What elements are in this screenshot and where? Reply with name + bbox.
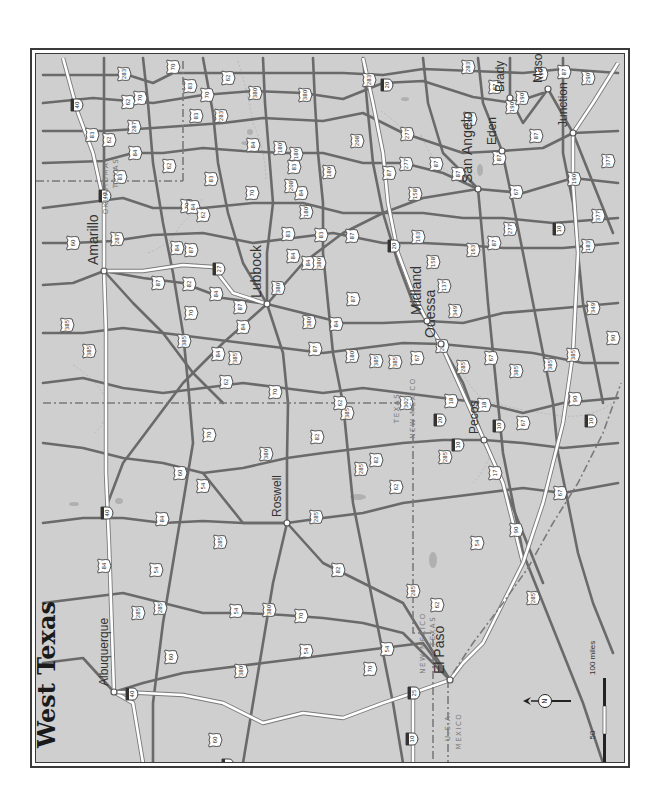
city-eden[interactable]: Eden <box>485 117 505 154</box>
shield-number: 385 <box>392 356 398 367</box>
us-highway-shield-icon: 67 <box>517 416 530 430</box>
us-highway-shield-icon: 380 <box>313 256 326 270</box>
shield-number: 349 <box>452 305 458 316</box>
city-dot-icon <box>481 437 487 443</box>
city-el-paso[interactable]: El Paso <box>431 626 453 683</box>
state-label: MEXICO <box>455 713 463 750</box>
us-highway-shield-icon: 60 <box>67 236 80 250</box>
us-highway-shield-icon: 70 <box>269 385 282 399</box>
shield-number: 60 <box>168 653 174 660</box>
map-canvas[interactable]: 4040404025251010101010202027206028783622… <box>35 53 625 763</box>
city-label: San Angelo <box>459 111 475 183</box>
us-highway-shield-icon: 87 <box>346 229 359 243</box>
us-highway-shield-icon: 83 <box>86 128 99 142</box>
us-highway-shield-icon: 190 <box>516 91 529 105</box>
us-highway-shield-icon: 54 <box>230 604 243 618</box>
shield-number: 277 <box>403 158 409 169</box>
shield-number: 84 <box>305 259 311 266</box>
city-dot-icon <box>545 86 551 92</box>
us-highway-shield-icon: 54 <box>197 479 210 493</box>
shield-number: 190 <box>509 101 515 112</box>
shield-number: 87 <box>496 154 502 161</box>
interstate-shield-icon: 27 <box>213 263 225 275</box>
us-highway-shield-icon: 54 <box>150 563 163 577</box>
us-highway-shield-icon: 385 <box>389 355 402 369</box>
us-highway-shield-icon: 163 <box>467 243 480 257</box>
shield-number: 67 <box>513 188 519 195</box>
shield-number: 20 <box>391 242 397 249</box>
shield-number: 208 <box>288 180 294 191</box>
shield-number: 60 <box>70 239 76 246</box>
shield-number: 137 <box>441 280 447 291</box>
us-highway-shield-icon: 290 <box>582 71 595 85</box>
shield-number: 377 <box>595 210 601 221</box>
us-highway-shield-icon: 84 <box>129 146 142 160</box>
us-highway-shield-icon: 380 <box>249 86 262 100</box>
us-highway-shield-icon: 349 <box>587 301 600 315</box>
shield-number: 290 <box>585 72 591 83</box>
us-highway-shield-icon: 180 <box>300 205 313 219</box>
us-highway-shield-icon: 285 <box>407 584 420 598</box>
us-highway-shield-icon: 84 <box>171 241 184 255</box>
city-dot-icon <box>264 301 270 307</box>
city-junction[interactable]: Junction <box>556 82 576 136</box>
shield-number: 10 <box>409 735 415 742</box>
us-highway-shield-icon: 287 <box>128 120 141 134</box>
scale-label-50: 50 <box>588 730 597 739</box>
shield-number: 87 <box>561 68 567 75</box>
shield-number: 62 <box>225 75 231 82</box>
shield-number: 18 <box>448 397 454 404</box>
shield-number: 10 <box>455 441 461 448</box>
shield-number: 87 <box>312 345 318 352</box>
us-highway-shield-icon: 87 <box>152 276 165 290</box>
city-label: Odessa <box>422 290 438 338</box>
us-highway-shield-icon: 180 <box>290 147 303 161</box>
us-highway-shield-icon: 385 <box>229 351 242 365</box>
us-highway-shield-icon: 190 <box>568 172 581 186</box>
shield-number: 27 <box>216 265 222 272</box>
shield-number: 380 <box>266 604 272 615</box>
city-label: Mason <box>531 54 545 83</box>
shield-number: 380 <box>275 282 281 293</box>
shield-number: 180 <box>293 148 299 159</box>
us-highway-shield-icon: 87 <box>383 166 396 180</box>
us-highway-shield-icon: 283 <box>462 60 475 74</box>
shield-number: 70 <box>204 91 210 98</box>
shield-number: 84 <box>132 149 138 156</box>
svg-text:N: N <box>541 698 549 703</box>
us-highway-shield-icon: 277 <box>504 222 517 236</box>
us-highway-shield-icon: 380 <box>303 315 316 329</box>
us-highway-shield-icon: 87 <box>309 342 322 356</box>
shield-number: 40 <box>74 101 80 108</box>
shield-number: 84 <box>213 290 219 297</box>
shield-number: 87 <box>188 246 194 253</box>
city-dot-icon <box>111 689 117 695</box>
shield-number: 84 <box>298 189 304 196</box>
map-title: West Texas <box>36 601 61 749</box>
us-highway-shield-icon: 62 <box>390 480 403 494</box>
shield-number: 287 <box>114 233 120 244</box>
shield-number: 20 <box>384 81 390 88</box>
shield-number: 285 <box>460 361 466 372</box>
shield-number: 62 <box>223 379 229 386</box>
city-dot-icon <box>570 130 576 136</box>
shield-number: 90 <box>572 395 578 402</box>
city-label: Lubbock <box>248 244 264 298</box>
shield-number: 285 <box>442 451 448 462</box>
shield-number: 67 <box>414 354 420 361</box>
us-highway-shield-icon: 67 <box>411 351 424 365</box>
shield-number: 180 <box>326 166 332 177</box>
us-highway-shield-icon: 82 <box>370 453 383 467</box>
us-highway-shield-icon: 54 <box>381 642 394 656</box>
shield-number: 70 <box>206 431 212 438</box>
us-highway-shield-icon: 380 <box>235 664 248 678</box>
shield-number: 84 <box>159 515 165 522</box>
state-label: NEW MEXICO <box>409 377 417 439</box>
us-highway-shield-icon: 67 <box>554 486 567 500</box>
interstate-shield-icon: 20 <box>381 79 393 91</box>
shield-number: 70 <box>367 665 373 672</box>
shield-number: 62 <box>166 163 172 170</box>
scale-label-100: 100 miles <box>588 641 597 675</box>
river <box>73 365 107 433</box>
us-highway-shield-icon: 285 <box>457 360 470 374</box>
